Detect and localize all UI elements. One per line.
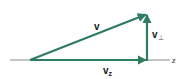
label-vperp: v⊥ [152,29,164,41]
label-vperp-sub: ⊥ [158,34,164,41]
label-vz: vz [103,65,113,77]
vector-v [30,15,146,61]
label-z-axis: z [171,55,176,65]
label-vz-sub: z [109,70,113,77]
vector-decomposition-diagram: v vz v⊥ z [0,0,191,79]
label-v: v [94,21,100,32]
